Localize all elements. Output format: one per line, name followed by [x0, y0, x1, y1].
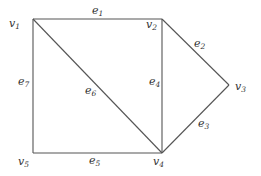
vertex-label-v2: v2	[146, 18, 157, 32]
edge-label-e4: e4	[149, 75, 161, 89]
labels-layer: v1v2v3v4v5e1e2e3e4e5e6e7	[9, 4, 246, 169]
edge-label-e1: e1	[92, 4, 103, 18]
edge-e2	[162, 19, 229, 85]
edge-label-e6: e6	[85, 84, 97, 98]
edge-e6	[33, 19, 162, 153]
edge-label-e3: e3	[198, 117, 210, 131]
edge-label-e2: e2	[194, 37, 206, 51]
edge-label-e5: e5	[89, 154, 101, 168]
edge-e3	[162, 85, 229, 153]
vertex-label-v3: v3	[235, 80, 246, 94]
vertex-label-v5: v5	[18, 155, 29, 169]
vertex-label-v1: v1	[9, 17, 20, 31]
vertex-label-v4: v4	[153, 155, 164, 169]
graph-diagram: v1v2v3v4v5e1e2e3e4e5e6e7	[0, 0, 261, 176]
edge-label-e7: e7	[18, 75, 30, 89]
